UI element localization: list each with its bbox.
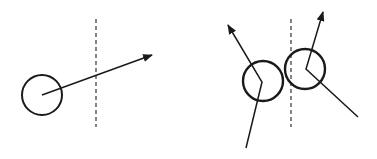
collision-diagram [0, 0, 377, 159]
velocity-arrow [42, 55, 152, 95]
panel-after [228, 12, 358, 148]
ball-left [243, 61, 283, 101]
panel-before [22, 19, 152, 127]
trajectory-right-arrow [306, 12, 358, 117]
